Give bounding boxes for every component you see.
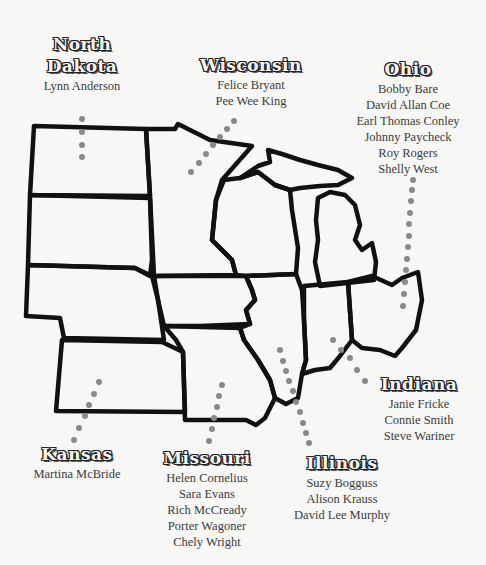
state-ohio: [348, 272, 422, 356]
state-name: Kansas: [22, 443, 132, 465]
artist-name: Roy Rogers: [342, 145, 474, 161]
artist-name: Sara Evans: [152, 486, 262, 502]
state-name: Wisconsin: [196, 54, 306, 76]
label-wisconsin: Wisconsin Felice Bryant Pee Wee King: [196, 54, 306, 109]
state-name: Dakota: [22, 55, 142, 77]
state-name: Illinois: [282, 452, 402, 474]
artist-name: Pee Wee King: [196, 93, 306, 109]
label-missouri: Missouri Helen Cornelius Sara Evans Rich…: [152, 447, 262, 550]
artist-name: Lynn Anderson: [22, 78, 142, 94]
state-name: Ohio: [342, 58, 474, 80]
state-name: Indiana: [364, 373, 474, 395]
state-michigan-lower: [315, 192, 376, 286]
state-name: North: [22, 33, 142, 55]
label-illinois: Illinois Suzy Bogguss Alison Krauss Davi…: [282, 452, 402, 523]
artist-name: Janie Fricke: [364, 396, 474, 412]
state-iowa: [154, 276, 255, 326]
artist-name: David Allan Coe: [342, 97, 474, 113]
artist-name: Rich McCready: [152, 502, 262, 518]
label-kansas: Kansas Martina McBride: [22, 443, 132, 482]
state-indiana: [302, 282, 352, 374]
label-north-dakota: North Dakota Lynn Anderson: [22, 33, 142, 94]
artist-name: Felice Bryant: [196, 77, 306, 93]
artist-name: Suzy Bogguss: [282, 475, 402, 491]
state-name: Missouri: [152, 447, 262, 469]
artist-name: Martina McBride: [22, 466, 132, 482]
state-michigan-upper: [240, 150, 352, 190]
label-indiana: Indiana Janie Fricke Connie Smith Steve …: [364, 373, 474, 444]
artist-name: Porter Wagoner: [152, 518, 262, 534]
artist-name: Earl Thomas Conley: [342, 113, 474, 129]
state-nebraska: [26, 265, 164, 340]
state-illinois: [240, 274, 306, 404]
artist-name: Shelly West: [342, 161, 474, 177]
artist-name: Chely Wright: [152, 534, 262, 550]
artist-name: Connie Smith: [364, 412, 474, 428]
state-north-dakota: [30, 126, 150, 196]
artist-name: Bobby Bare: [342, 81, 474, 97]
state-minnesota: [146, 124, 252, 276]
artist-name: Johnny Paycheck: [342, 129, 474, 145]
artist-name: Helen Cornelius: [152, 470, 262, 486]
artist-name: Alison Krauss: [282, 491, 402, 507]
artist-name: David Lee Murphy: [282, 507, 402, 523]
state-kansas: [56, 340, 185, 412]
label-ohio: Ohio Bobby Bare David Allan Coe Earl Tho…: [342, 58, 474, 177]
artist-name: Steve Wariner: [364, 428, 474, 444]
